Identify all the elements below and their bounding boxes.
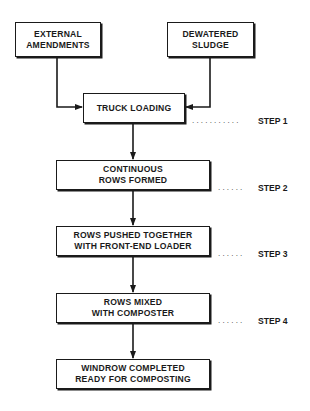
step-1-label: STEP 1 bbox=[258, 116, 287, 126]
box-line: SLUDGE bbox=[192, 40, 229, 51]
connector-lines bbox=[0, 0, 310, 411]
box-line: ROWS PUSHED TOGETHER bbox=[74, 230, 193, 241]
box-line: READY FOR COMPOSTING bbox=[75, 374, 191, 385]
rows-mixed-box: ROWS MIXED WITH COMPOSTER bbox=[56, 293, 210, 323]
rows-pushed-together-box: ROWS PUSHED TOGETHER WITH FRONT-END LOAD… bbox=[56, 226, 210, 256]
truck-loading-box: TRUCK LOADING bbox=[83, 93, 185, 123]
step-3-leader: ...... bbox=[218, 249, 245, 258]
step-1-leader: ........... bbox=[192, 116, 241, 125]
step-4-leader: ...... bbox=[218, 316, 245, 325]
windrow-completed-box: WINDROW COMPLETED READY FOR COMPOSTING bbox=[56, 359, 210, 389]
box-line: ROWS FORMED bbox=[99, 175, 168, 186]
box-line: DEWATERED bbox=[182, 29, 238, 40]
box-line: ROWS MIXED bbox=[104, 297, 162, 308]
step-2-label: STEP 2 bbox=[258, 183, 287, 193]
step-4-label: STEP 4 bbox=[258, 316, 287, 326]
box-line: AMENDMENTS bbox=[26, 40, 90, 51]
box-line: CONTINUOUS bbox=[103, 164, 163, 175]
box-line: WINDROW COMPLETED bbox=[81, 363, 185, 374]
step-2-leader: ...... bbox=[218, 183, 245, 192]
box-line: EXTERNAL bbox=[34, 29, 82, 40]
step-3-label: STEP 3 bbox=[258, 249, 287, 259]
continuous-rows-formed-box: CONTINUOUS ROWS FORMED bbox=[56, 160, 210, 190]
box-line: WITH COMPOSTER bbox=[92, 308, 175, 319]
box-line: WITH FRONT-END LOADER bbox=[74, 241, 191, 252]
dewatered-sludge-box: DEWATERED SLUDGE bbox=[167, 22, 254, 57]
box-line: TRUCK LOADING bbox=[97, 103, 172, 114]
external-amendments-box: EXTERNAL AMENDMENTS bbox=[15, 22, 101, 57]
